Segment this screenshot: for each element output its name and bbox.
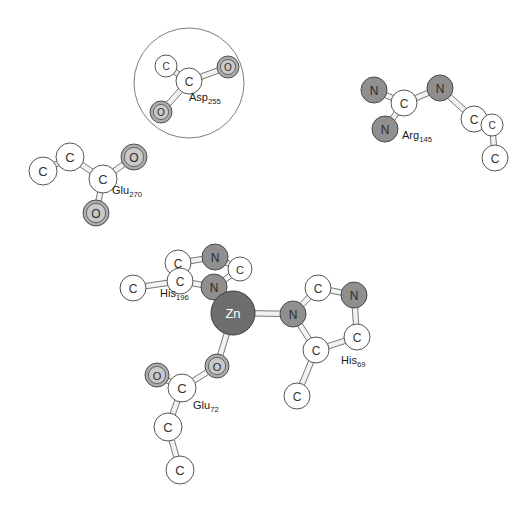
- atom-element-label: O: [153, 370, 162, 382]
- atom-c: C: [166, 456, 194, 484]
- atom-o: O: [121, 144, 147, 170]
- atom-element-label: C: [177, 381, 186, 396]
- atom-n: N: [280, 301, 306, 327]
- atom-c: C: [228, 257, 252, 281]
- atom-c: C: [482, 145, 508, 171]
- molecular-diagram-container: CCOOCCCOONCNNCCCCCCNCNZnNCNCCCOOCCC Asp2…: [0, 0, 532, 511]
- residue-number: 145: [419, 135, 432, 144]
- atom-element-label: N: [436, 82, 445, 96]
- atom-c: C: [305, 275, 331, 301]
- atom-element-label: O: [224, 62, 232, 73]
- atom-c: C: [155, 55, 177, 77]
- atom-n: N: [341, 282, 367, 308]
- bond-layer: [42, 64, 498, 471]
- atom-element-label: C: [400, 97, 409, 111]
- atom-element-label: C: [176, 275, 185, 289]
- atom-c: C: [29, 157, 57, 185]
- residue-number: 69: [357, 360, 366, 369]
- atom-element-label: C: [175, 463, 184, 478]
- atom-element-label: C: [129, 282, 138, 296]
- atom-element-label: C: [488, 120, 495, 131]
- atom-element-label: C: [312, 344, 321, 358]
- atom-element-label: N: [211, 251, 220, 265]
- residue-label-glu72: Glu72: [193, 399, 219, 414]
- residue-label-arg145: Arg145: [402, 129, 432, 144]
- atom-n: N: [372, 116, 398, 142]
- residue-name: Arg: [402, 129, 419, 141]
- atom-element-label: C: [38, 164, 47, 179]
- atom-c: C: [344, 324, 370, 350]
- residue-name: Glu: [193, 399, 210, 411]
- atom-zn: Zn: [211, 291, 255, 335]
- atom-element-label: C: [65, 150, 74, 165]
- atom-element-label: Zn: [225, 306, 240, 321]
- atom-o: O: [150, 101, 172, 123]
- atom-element-label: C: [491, 152, 500, 166]
- atom-layer: CCOOCCCOONCNNCCCCCCNCNZnNCNCCCOOCCC: [29, 55, 508, 484]
- atom-element-label: N: [210, 281, 219, 295]
- atom-n: N: [361, 77, 387, 103]
- atom-c: C: [391, 90, 417, 116]
- residue-number: 72: [210, 405, 219, 414]
- atom-c: C: [284, 383, 310, 409]
- atom-element-label: N: [350, 289, 359, 303]
- atom-element-label: O: [157, 107, 165, 118]
- atom-element-label: C: [162, 61, 169, 72]
- atom-c: C: [120, 275, 146, 301]
- atom-element-label: C: [163, 420, 172, 435]
- atom-element-label: O: [91, 207, 100, 221]
- residue-name: His: [160, 287, 176, 299]
- residue-number: 255: [208, 97, 221, 106]
- atom-element-label: C: [293, 390, 302, 404]
- atom-element-label: C: [314, 282, 323, 296]
- atom-c: C: [303, 337, 329, 363]
- atom-o: O: [217, 56, 239, 78]
- atom-element-label: N: [370, 84, 379, 98]
- molecule-canvas: CCOOCCCOONCNNCCCCCCNCNZnNCNCCCOOCCC Asp2…: [0, 0, 532, 511]
- atom-element-label: O: [213, 361, 222, 373]
- atom-n: N: [202, 244, 228, 270]
- atom-element-label: C: [353, 331, 362, 345]
- atom-n: N: [427, 75, 453, 101]
- residue-number: 270: [129, 190, 142, 199]
- residue-number: 196: [176, 293, 189, 302]
- atom-element-label: C: [185, 75, 194, 89]
- residue-name: His: [341, 354, 357, 366]
- residue-name: Glu: [112, 184, 129, 196]
- atom-c: C: [56, 143, 84, 171]
- atom-c: C: [168, 374, 196, 402]
- residue-label-his69: His69: [341, 354, 365, 369]
- residue-label-asp255: Asp255: [189, 91, 221, 106]
- atom-o: O: [145, 363, 169, 387]
- atom-element-label: C: [470, 113, 479, 127]
- atom-element-label: O: [129, 151, 138, 165]
- atom-o: O: [205, 354, 229, 378]
- atom-o: O: [83, 200, 109, 226]
- atom-element-label: N: [381, 123, 390, 137]
- atom-c: C: [154, 413, 182, 441]
- atom-element-label: C: [98, 172, 107, 187]
- atom-element-label: C: [236, 264, 244, 276]
- residue-name: Asp: [189, 91, 208, 103]
- atom-element-label: N: [289, 308, 298, 322]
- atom-c: C: [481, 114, 503, 136]
- residue-label-glu270: Glu270: [112, 184, 142, 199]
